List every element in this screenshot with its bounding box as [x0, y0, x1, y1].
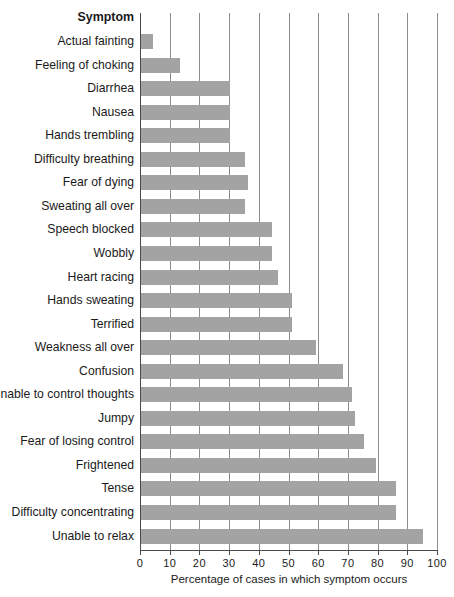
bar-category-label: Unable to control thoughts [0, 383, 134, 407]
x-tick-label-80: 80 [371, 557, 384, 569]
bar-category-label: Unable to relax [52, 525, 134, 549]
chart-rows: Symptom Actual faintingFeeling of chokin… [0, 0, 454, 550]
bar [141, 199, 245, 214]
bar-row: Unable to relax [0, 525, 454, 549]
x-tick-100 [437, 550, 438, 555]
bar [141, 434, 364, 449]
bar-row: Speech blocked [0, 218, 454, 242]
x-tick-label-40: 40 [252, 557, 265, 569]
bar-row: Sweating all over [0, 195, 454, 219]
x-tick-label-70: 70 [341, 557, 354, 569]
bar-category-label: Confusion [79, 360, 134, 384]
bar [141, 128, 230, 143]
bar-row: Frightened [0, 454, 454, 478]
bar [141, 246, 272, 261]
category-header-label: Symptom [78, 6, 134, 30]
bar-row: Diarrhea [0, 77, 454, 101]
bar-category-label: Sweating all over [41, 195, 134, 219]
bar [141, 387, 352, 402]
bar [141, 58, 180, 73]
bar-row: Fear of dying [0, 171, 454, 195]
bar-category-label: Hands trembling [45, 124, 134, 148]
bar [141, 34, 153, 49]
bar-row: Hands sweating [0, 289, 454, 313]
bar-row: Wobbly [0, 242, 454, 266]
bar [141, 411, 355, 426]
x-tick-label-30: 30 [223, 557, 236, 569]
bar-category-label: Nausea [92, 101, 134, 125]
x-tick-80 [378, 550, 379, 555]
bar-category-label: Difficulty breathing [34, 148, 134, 172]
category-header-row: Symptom [0, 6, 454, 30]
bar-category-label: Heart racing [68, 266, 134, 290]
bar [141, 458, 376, 473]
bar-row: Difficulty concentrating [0, 501, 454, 525]
bar-row: Weakness all over [0, 336, 454, 360]
x-tick-label-60: 60 [312, 557, 325, 569]
bar-category-label: Diarrhea [87, 77, 134, 101]
x-tick-label-100: 100 [427, 557, 447, 569]
x-tick-60 [318, 550, 319, 555]
bar-category-label: Fear of losing control [20, 430, 134, 454]
x-tick-label-90: 90 [401, 557, 414, 569]
bar-row: Difficulty breathing [0, 148, 454, 172]
bar [141, 105, 230, 120]
bar [141, 364, 343, 379]
bar-row: Actual fainting [0, 30, 454, 54]
bar [141, 293, 292, 308]
bar-category-label: Fear of dying [63, 171, 134, 195]
bar-category-label: Difficulty concentrating [12, 501, 134, 525]
bar-category-label: Speech blocked [47, 218, 134, 242]
bar [141, 222, 272, 237]
x-axis-title: Percentage of cases in which symptom occ… [140, 573, 438, 585]
x-tick-90 [407, 550, 408, 555]
x-tick-0 [140, 550, 141, 555]
bar-category-label: Actual fainting [57, 30, 134, 54]
bar [141, 270, 278, 285]
bar-category-label: Frightened [76, 454, 134, 478]
x-tick-label-10: 10 [163, 557, 176, 569]
bar-row: Nausea [0, 101, 454, 125]
bar-row: Fear of losing control [0, 430, 454, 454]
bar [141, 505, 396, 520]
bar [141, 81, 230, 96]
bar [141, 481, 396, 496]
bar [141, 340, 316, 355]
x-tick-label-50: 50 [282, 557, 295, 569]
x-tick-20 [199, 550, 200, 555]
x-tick-40 [259, 550, 260, 555]
bar-row: Jumpy [0, 407, 454, 431]
x-tick-10 [170, 550, 171, 555]
bar-row: Hands trembling [0, 124, 454, 148]
x-tick-label-0: 0 [137, 557, 144, 569]
bar-row: Feeling of choking [0, 54, 454, 78]
x-tick-50 [289, 550, 290, 555]
bar [141, 175, 248, 190]
bar-row: Confusion [0, 360, 454, 384]
bar [141, 152, 245, 167]
bar [141, 317, 292, 332]
bar-category-label: Weakness all over [35, 336, 134, 360]
x-tick-70 [348, 550, 349, 555]
symptom-frequency-bar-chart: Symptom Actual faintingFeeling of chokin… [0, 0, 454, 597]
bar-row: Tense [0, 477, 454, 501]
bar-category-label: Tense [101, 477, 134, 501]
bar-row: Heart racing [0, 266, 454, 290]
bar-category-label: Feeling of choking [35, 54, 134, 78]
bar-row: Unable to control thoughts [0, 383, 454, 407]
x-tick-label-20: 20 [193, 557, 206, 569]
bar-category-label: Hands sweating [47, 289, 134, 313]
bar-row: Terrified [0, 313, 454, 337]
x-tick-30 [229, 550, 230, 555]
bar-category-label: Jumpy [98, 407, 134, 431]
bar-category-label: Terrified [91, 313, 134, 337]
bar [141, 529, 423, 544]
bar-category-label: Wobbly [94, 242, 134, 266]
